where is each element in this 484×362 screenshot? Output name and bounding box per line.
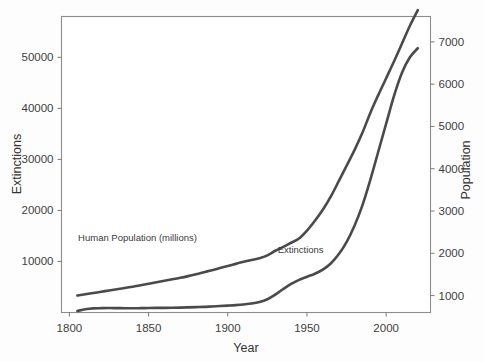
y-tick-label: 10000 — [22, 255, 54, 267]
y2-tick-label: 3000 — [439, 205, 465, 217]
y2-tick-label: 1000 — [439, 290, 465, 302]
x-tick-label: 1900 — [215, 322, 241, 334]
chart-screenshot: 18001850190019502000 1000020000300004000… — [0, 0, 484, 362]
y-axis-title: Extinctions — [10, 134, 24, 194]
y2-tick-label: 2000 — [439, 247, 465, 259]
x-tick-label: 1950 — [294, 322, 320, 334]
y2-tick-label: 7000 — [439, 36, 465, 48]
y-tick-label: 50000 — [22, 51, 54, 63]
y2-axis-title: Population — [459, 140, 473, 199]
y2-tick-label: 5000 — [439, 120, 465, 132]
y-tick-label: 20000 — [22, 204, 54, 216]
y-tick-label: 40000 — [22, 102, 54, 114]
dual-axis-line-chart: 18001850190019502000 1000020000300004000… — [0, 0, 484, 362]
x-tick-label: 1850 — [136, 322, 162, 334]
x-tick-label: 1800 — [57, 322, 83, 334]
x-tick-label: 2000 — [373, 322, 399, 334]
x-axis-title: Year — [233, 341, 258, 355]
series-inline-label: Human Population (millions) — [78, 232, 197, 243]
y-tick-label: 30000 — [22, 153, 54, 165]
y2-tick-label: 6000 — [439, 78, 465, 90]
chart-canvas: 18001850190019502000 1000020000300004000… — [0, 0, 484, 362]
series-inline-label: Extinctions — [278, 244, 324, 255]
